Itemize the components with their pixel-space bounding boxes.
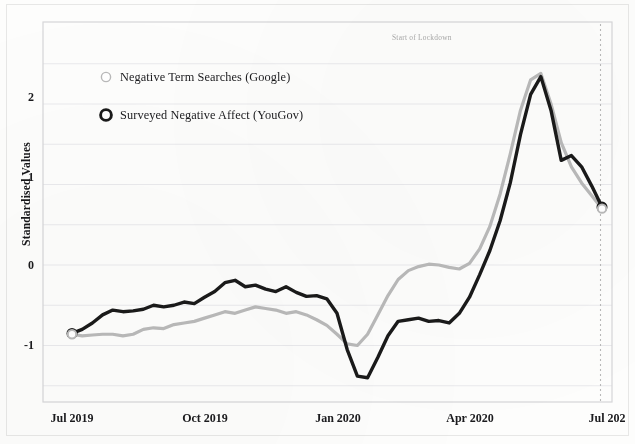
y-tick-label-2: 2 [8, 90, 34, 105]
y-tick-label-1: 1 [8, 170, 34, 185]
legend-marker-yougov [101, 110, 112, 121]
x-tick-label-jul-2019: Jul 2019 [27, 411, 117, 426]
legend-label-yougov: Surveyed Negative Affect (YouGov) [120, 108, 303, 123]
legend-marker-google [101, 72, 110, 81]
start-marker-google [68, 330, 76, 338]
y-tick-label-minus-1: -1 [8, 338, 34, 353]
y-tick-label-0: 0 [8, 258, 34, 273]
line-chart-canvas [0, 0, 635, 444]
x-tick-label-oct-2019: Oct 2019 [160, 411, 250, 426]
x-tick-label-jul-2020: Jul 202 [562, 411, 635, 426]
chart-figure: Standardised Values 2 1 0 -1 Jul 2019 Oc… [0, 0, 635, 444]
y-axis-title: Standardised Values [20, 124, 32, 264]
end-marker-google [598, 204, 606, 212]
x-tick-label-apr-2020: Apr 2020 [425, 411, 515, 426]
lockdown-annotation-label: Start of Lockdown [392, 33, 452, 42]
legend-markers-group [101, 72, 112, 120]
legend-label-google: Negative Term Searches (Google) [120, 70, 290, 85]
x-tick-label-jan-2020: Jan 2020 [293, 411, 383, 426]
